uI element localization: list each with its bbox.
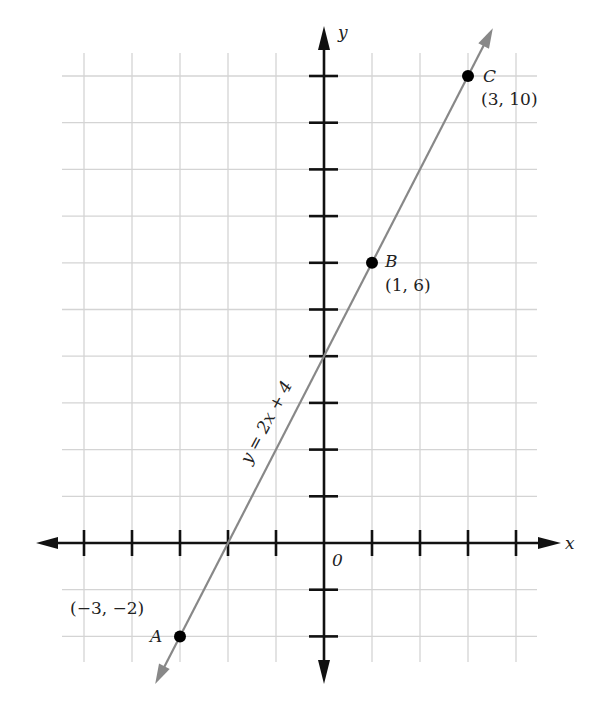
point-c-name: C bbox=[483, 66, 496, 86]
point-a bbox=[174, 630, 186, 642]
point-c-coords: (3, 10) bbox=[481, 89, 538, 109]
grid bbox=[62, 53, 537, 662]
equation-label: y = 2x + 4 bbox=[235, 377, 296, 468]
point-c bbox=[462, 70, 474, 82]
point-a-coords: (−3, −2) bbox=[70, 598, 144, 618]
x-axis-label: x bbox=[565, 533, 575, 553]
y-axis-label: y bbox=[337, 22, 348, 42]
origin-label: 0 bbox=[332, 550, 343, 570]
point-a-name: A bbox=[148, 626, 162, 646]
axes bbox=[36, 26, 561, 684]
point-b-name: B bbox=[384, 251, 398, 271]
point-b-coords: (1, 6) bbox=[385, 275, 431, 295]
coordinate-plane: x y 0 y = 2x + 4 C (3, 10) B (1, 6) A (−… bbox=[0, 0, 597, 721]
point-b bbox=[366, 257, 378, 269]
